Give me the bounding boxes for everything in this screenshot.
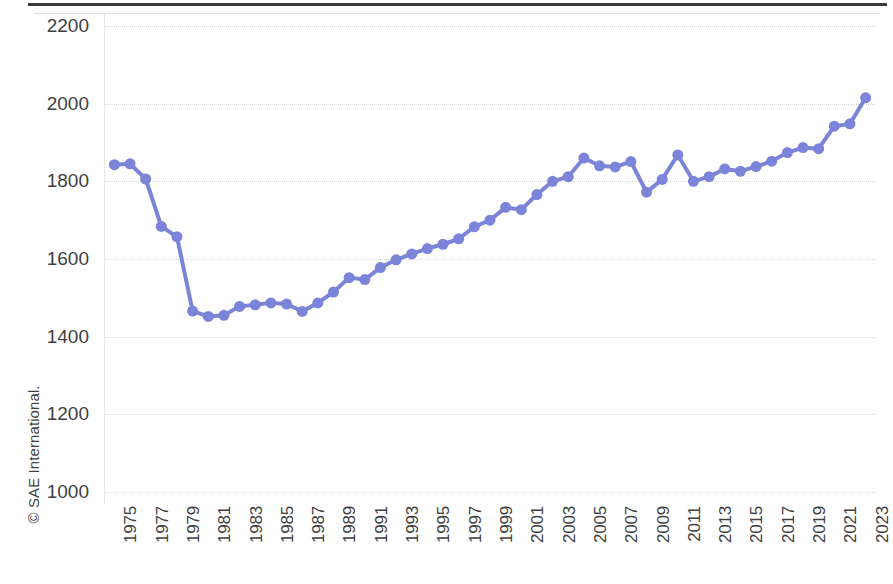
data-point-marker <box>156 221 167 232</box>
data-point-marker <box>297 306 308 317</box>
x-axis-tick-label: 1999 <box>497 506 517 543</box>
x-axis-tick-label: 2009 <box>654 506 674 543</box>
data-point-marker <box>829 121 840 132</box>
y-axis-tick-label: 2000 <box>47 93 89 115</box>
data-point-marker <box>406 248 417 259</box>
x-axis-tick-label: 1991 <box>372 506 392 543</box>
data-point-marker <box>751 161 762 172</box>
line-series-group <box>105 26 875 492</box>
data-point-marker <box>438 239 449 250</box>
data-point-marker <box>453 233 464 244</box>
y-axis-tick-label: 2200 <box>47 15 89 37</box>
data-point-marker <box>516 204 527 215</box>
data-point-marker <box>719 163 730 174</box>
x-axis-tick-label: 2017 <box>779 506 799 543</box>
data-point-marker <box>485 215 496 226</box>
x-axis-tick-label: 1977 <box>153 506 173 543</box>
x-axis-tick-label: 1979 <box>184 506 204 543</box>
data-point-marker <box>688 176 699 187</box>
data-point-marker <box>704 171 715 182</box>
data-point-marker <box>187 306 198 317</box>
x-axis-tick-label: 1981 <box>215 506 235 543</box>
y-axis-tick-label: 1400 <box>47 326 89 348</box>
data-point-marker <box>860 92 871 103</box>
x-axis-tick-label: 1985 <box>278 506 298 543</box>
series-line <box>114 98 865 317</box>
x-axis-tick-label: 2007 <box>622 506 642 543</box>
data-point-marker <box>140 174 151 185</box>
data-point-marker <box>359 274 370 285</box>
data-point-marker <box>766 156 777 167</box>
data-point-marker <box>782 147 793 158</box>
y-axis-tick-label: 1000 <box>47 481 89 503</box>
x-axis-tick-label: 2015 <box>747 506 767 543</box>
x-axis-tick-label: 1997 <box>466 506 486 543</box>
data-point-marker <box>531 189 542 200</box>
x-axis-tick-label: 2003 <box>560 506 580 543</box>
data-point-marker <box>578 153 589 164</box>
y-axis-tick-label: 1800 <box>47 170 89 192</box>
data-point-marker <box>109 159 120 170</box>
data-point-marker <box>422 243 433 254</box>
data-point-marker <box>610 161 621 172</box>
data-point-marker <box>813 143 824 154</box>
data-point-marker <box>563 171 574 182</box>
data-point-marker <box>218 310 229 321</box>
x-axis-tick-label: 1983 <box>247 506 267 543</box>
data-point-marker <box>469 221 480 232</box>
x-axis-tick-label: 2013 <box>716 506 736 543</box>
data-point-marker <box>250 299 261 310</box>
data-point-marker <box>625 156 636 167</box>
data-point-marker <box>375 262 386 273</box>
x-axis-tick-label: 1993 <box>403 506 423 543</box>
x-axis-tick-label: 2019 <box>810 506 830 543</box>
data-point-marker <box>641 187 652 198</box>
x-axis-tick-label: 1989 <box>340 506 360 543</box>
data-point-marker <box>171 231 182 242</box>
data-point-marker <box>328 287 339 298</box>
data-point-marker <box>735 166 746 177</box>
data-point-marker <box>344 272 355 283</box>
data-point-marker <box>391 254 402 265</box>
data-point-marker <box>844 118 855 129</box>
data-point-marker <box>234 301 245 312</box>
gridline <box>105 492 875 493</box>
data-point-marker <box>657 174 668 185</box>
data-point-marker <box>125 158 136 169</box>
x-axis-tick-label: 2023 <box>873 506 893 543</box>
x-axis-tick-label: 1995 <box>434 506 454 543</box>
data-point-marker <box>594 160 605 171</box>
x-axis-tick-label: 2005 <box>591 506 611 543</box>
data-point-marker <box>547 176 558 187</box>
data-point-marker <box>281 299 292 310</box>
x-axis-tick-label: 1975 <box>121 506 141 543</box>
data-point-marker <box>265 297 276 308</box>
x-axis-tick-label: 1987 <box>309 506 329 543</box>
y-axis-tick-label: 1200 <box>47 403 89 425</box>
data-point-marker <box>203 311 214 322</box>
data-point-marker <box>500 202 511 213</box>
data-point-marker <box>312 297 323 308</box>
x-axis-tick-label: 2001 <box>528 506 548 543</box>
x-axis-tick-label: 2011 <box>685 506 705 542</box>
plot-area: 1000120014001600180020002200 <box>105 26 875 492</box>
y-axis-tick-label: 1600 <box>47 248 89 270</box>
data-point-marker <box>798 142 809 153</box>
data-point-marker <box>672 149 683 160</box>
x-axis-tick-label: 2021 <box>841 506 861 543</box>
